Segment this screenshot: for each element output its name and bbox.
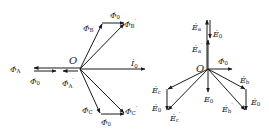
label-phi0-mid: Φ̇0 xyxy=(30,77,41,86)
label-e-c-prime: Ėc′ xyxy=(169,111,181,123)
label-phi-c-prime: Φ̇C′ xyxy=(125,105,138,116)
label-e-c: Ėc xyxy=(151,86,161,95)
label-phi-b-prime: Φ̇B′ xyxy=(124,18,137,29)
label-e-b: Ėb xyxy=(239,76,250,85)
label-phi-b: Φ̇B xyxy=(83,24,94,33)
origin-label-left: O xyxy=(69,55,77,66)
label-e-a: Ėa xyxy=(191,23,202,32)
label-e0-right: Ė0 xyxy=(250,98,261,107)
label-e0-top: Ė0 xyxy=(212,30,223,39)
label-phi-a: Φ̇A xyxy=(10,65,22,74)
phasor-diagram: O İ0 Φ̇B Φ̇0 Φ̇B′ Φ̇A Φ̇0 Φ̇A′ Φ̇C Φ̇0 Φ… xyxy=(0,0,269,134)
label-phi-a-prime: Φ̇A′ xyxy=(62,77,75,89)
label-phi-c: Φ̇C xyxy=(82,106,93,115)
label-phi0-top: Φ̇0 xyxy=(110,11,121,20)
label-e-a-prime: Ėa′ xyxy=(191,42,203,54)
origin-label-right: O xyxy=(196,63,204,74)
label-phi0-bot: Φ̇0 xyxy=(101,118,112,127)
label-phi0: Φ̇0 xyxy=(218,57,229,66)
left-phasor-panel xyxy=(34,23,145,114)
label-i0: İ0 xyxy=(130,59,138,69)
label-e-b-prime: Ėb′ xyxy=(221,102,233,114)
e-c-prime-vector xyxy=(168,69,208,110)
label-e0-left: Ė0 xyxy=(151,104,162,113)
label-e0-mid: E0 xyxy=(203,95,214,104)
